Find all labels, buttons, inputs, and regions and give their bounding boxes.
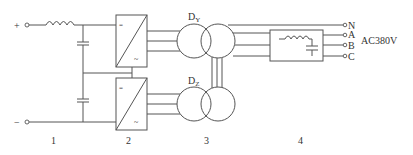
negative-terminal-label: − bbox=[14, 117, 20, 128]
positive-terminal-label: + bbox=[14, 20, 20, 31]
terminal-b-label: B bbox=[348, 40, 355, 51]
terminal-c-label: C bbox=[348, 51, 355, 62]
section-label-4: 4 bbox=[298, 135, 303, 146]
inverter-top: = ~ bbox=[116, 15, 147, 67]
negative-terminal bbox=[25, 120, 29, 124]
ac-symbol: ~ bbox=[134, 55, 139, 64]
output-terminals: N A B C AC380V bbox=[343, 20, 398, 62]
transformer-dz: DZ bbox=[177, 75, 235, 121]
output-filter bbox=[270, 30, 323, 61]
output-capacitor-icon bbox=[306, 46, 318, 50]
transformer-dz-label: DZ bbox=[188, 75, 200, 88]
positive-terminal bbox=[25, 23, 29, 27]
section-label-1: 1 bbox=[51, 135, 56, 146]
circuit-diagram: + − = ~ = ~ bbox=[0, 0, 413, 155]
output-voltage-label: AC380V bbox=[361, 35, 398, 46]
ac-symbol: ~ bbox=[134, 118, 139, 127]
input-inductor-icon bbox=[46, 22, 74, 26]
output-inductor-icon bbox=[285, 36, 309, 39]
inverter-bottom: = ~ bbox=[116, 78, 147, 130]
transformer-dy-label: DY bbox=[188, 11, 200, 24]
capacitor-top-icon bbox=[77, 42, 89, 45]
terminal-a-label: A bbox=[348, 29, 356, 40]
capacitor-bottom-icon bbox=[77, 99, 89, 102]
input-filter-section: + − bbox=[14, 20, 132, 128]
filter-outputs bbox=[323, 35, 343, 56]
dc-symbol: = bbox=[119, 84, 123, 92]
inverter-top-outputs bbox=[147, 31, 180, 51]
transformer-interconnect bbox=[212, 57, 222, 88]
transformer-dy: DY bbox=[177, 11, 235, 58]
section-label-2: 2 bbox=[126, 135, 131, 146]
section-label-3: 3 bbox=[204, 135, 209, 146]
dc-symbol: = bbox=[119, 21, 123, 29]
inverter-bottom-outputs bbox=[147, 94, 180, 114]
section-labels: 1 2 3 4 bbox=[51, 135, 303, 146]
